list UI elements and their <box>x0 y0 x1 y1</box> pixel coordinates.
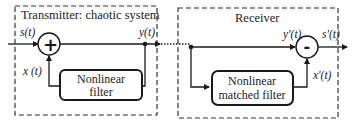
feedback-label-x: x (t) <box>22 65 42 78</box>
tx-filter-line1: Nonlinear <box>77 72 125 86</box>
sum-symbol: + <box>43 34 58 55</box>
output-label-y: y(t) <box>138 26 155 39</box>
receiver-title: Receiver <box>235 11 280 25</box>
tx-filter-line2: filter <box>89 85 112 99</box>
transmitter-title: Transmitter: chaotic system <box>21 8 160 22</box>
feedback-label-x-prime: x'(t) <box>312 69 332 82</box>
input-label-s: s(t) <box>20 26 36 39</box>
diff-symbol: - <box>304 37 311 56</box>
rx-filter-line2: matched filter <box>219 88 286 102</box>
block-diagram: Transmitter: chaotic system Receiver s(t… <box>0 0 359 122</box>
rx-filter-line1: Nonlinear <box>228 74 276 88</box>
output-label-s-prime: s'(t) <box>322 28 340 41</box>
